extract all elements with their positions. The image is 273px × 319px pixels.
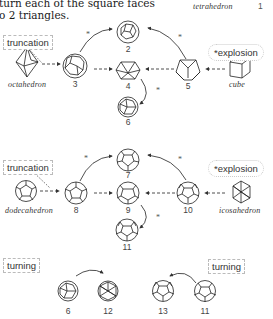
node-label-11-bottom: 11 [195,306,215,316]
icosahedron-label: icosahedron [219,206,260,215]
node-label-4: 4 [118,81,138,91]
node-label-9: 9 [118,205,138,215]
node-label-5: 5 [178,81,198,91]
polyhedron-6-bottom-icon [58,281,78,301]
dodecahedron-label: dodecahedron [5,206,53,215]
node-label-12: 12 [98,306,118,316]
icosahedron-icon [233,181,250,203]
explosion-tag-1: *explosion [208,44,264,61]
node-label-3: 3 [65,79,85,89]
polyhedron-11-bottom-icon [194,281,216,303]
node-label-6-bottom: 6 [58,306,78,316]
polyhedron-5-icon [176,60,200,80]
dodecahedron-icon [16,181,37,202]
polyhedron-13-icon [152,281,174,302]
polyhedron-8-icon [65,182,87,204]
star-marker: * [156,86,160,95]
turning-tag-left: turning [3,258,40,273]
explosion-tag-2: *explosion [208,160,264,177]
star-marker: * [84,154,88,163]
node-label-10: 10 [178,205,198,215]
truncation-tag-1: truncation [3,35,53,50]
star-marker: * [156,213,160,222]
polyhedron-3-icon [63,54,87,78]
star-marker: * [178,155,182,164]
truncation-tag-2: truncation [3,160,53,175]
node-label-11: 11 [117,242,137,252]
octahedron-icon [16,47,38,77]
polyhedron-9-icon [117,182,139,204]
node-label-8: 8 [66,205,86,215]
polyhedron-10-icon [177,182,199,204]
star-marker: * [178,33,182,42]
polyhedron-4-icon [116,62,140,79]
cube-label: cube [229,80,245,89]
octahedron-label: octahedron [8,80,46,89]
node-label-2: 2 [118,44,138,54]
polyhedron-11-icon [116,219,138,241]
polyhedron-12-icon [98,281,118,301]
polyhedron-7-icon [117,149,139,171]
node-label-6: 6 [118,117,138,127]
polyhedron-6-icon [118,97,138,117]
star-marker: * [86,30,90,39]
node-label-7: 7 [118,170,138,180]
node-label-13: 13 [153,306,173,316]
polyhedron-2-icon [117,21,139,43]
turning-tag-right: turning [208,259,245,274]
